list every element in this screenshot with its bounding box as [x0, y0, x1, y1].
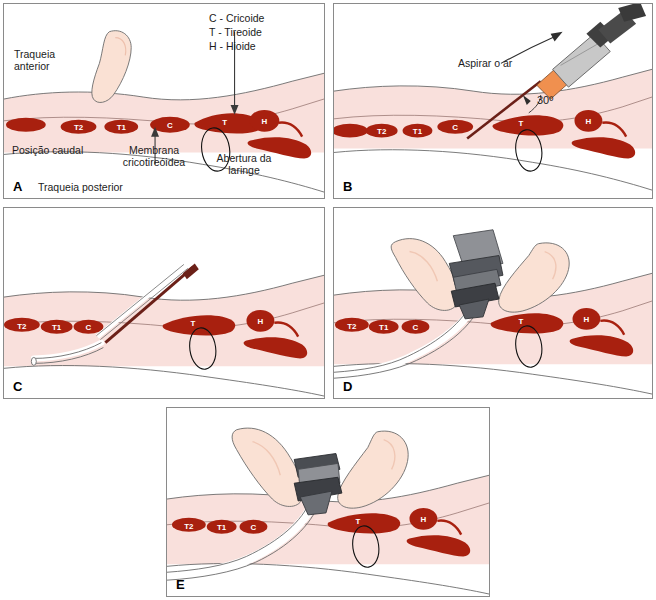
label-aspirate-air: Aspirar o ar [458, 57, 512, 69]
ring-label-t2: T2 [347, 322, 357, 331]
label-trachea-anterior: Traqueia anterior [14, 48, 55, 73]
ring-label-t: T [518, 317, 523, 326]
ring-label-h: H [584, 315, 590, 324]
panel-d-illustration: T2 T1 C T H [334, 208, 652, 398]
ring-label-c: C [167, 121, 173, 130]
label-insertion-angle: 30º [537, 94, 553, 107]
panel-letter-b: B [343, 179, 353, 194]
ring-label-t1: T1 [379, 323, 389, 332]
panel-e: T2 T1 C T H E [166, 407, 490, 597]
ring-label-t1: T1 [217, 523, 227, 532]
ring-label-t: T [222, 118, 227, 127]
ring-label-t2: T2 [377, 127, 387, 136]
panel-letter-d: D [343, 379, 353, 394]
guidewire-tip [31, 357, 36, 365]
ring-label-t2: T2 [184, 522, 194, 531]
panel-a: T2 T1 C T H C - Cricoide T - Tireoide H … [3, 3, 325, 199]
ring-label-t1: T1 [413, 127, 423, 136]
panel-letter-e: E [176, 577, 185, 592]
ring-label-t1: T1 [52, 323, 62, 332]
panel-letter-c: C [13, 379, 23, 394]
palpating-finger [92, 31, 131, 103]
ring-label-c: C [452, 123, 458, 132]
aspirate-arrow-head [551, 32, 563, 42]
panel-b-illustration: T2 T1 C T H [334, 4, 652, 198]
label-cricothyroid-membrane: Membrana cricotireóidea [108, 144, 200, 169]
ring-label-t2: T2 [74, 123, 84, 132]
tracheal-ring-t3 [6, 118, 46, 132]
panel-b: T2 T1 C T H Aspirar o ar 30º B [333, 3, 653, 199]
label-laryngeal-opening: Abertura da laringe [208, 152, 280, 177]
label-caudal-position: Posição caudal [12, 144, 83, 156]
ring-label-c: C [413, 323, 419, 332]
ring-label-h: H [421, 515, 427, 524]
dilator-hub [183, 263, 199, 279]
panel-c-illustration: T2 T1 C T H [4, 208, 324, 398]
panel-letter-a: A [13, 179, 23, 194]
ring-label-t2: T2 [17, 322, 27, 331]
skin-lower-contour [334, 150, 652, 190]
ring-label-h: H [586, 117, 592, 126]
ring-label-h: H [258, 317, 264, 326]
ring-label-t: T [190, 319, 195, 328]
label-trachea-posterior: Traqueia posterior [38, 181, 123, 193]
ring-label-t1: T1 [117, 123, 127, 132]
ring-label-t: T [355, 517, 360, 526]
ring-label-h: H [261, 117, 267, 126]
ring-label-c: C [251, 523, 257, 532]
panel-e-illustration: T2 T1 C T H [167, 408, 489, 596]
legend-abbreviations: C - Cricoide T - Tireoide H - Hioide [209, 12, 264, 54]
ring-label-c: C [86, 323, 92, 332]
skin-lower-contour [4, 366, 324, 396]
panel-d: T2 T1 C T H D [333, 207, 653, 399]
panel-c: T2 T1 C T H C [3, 207, 325, 399]
ring-label-t: T [518, 119, 523, 128]
